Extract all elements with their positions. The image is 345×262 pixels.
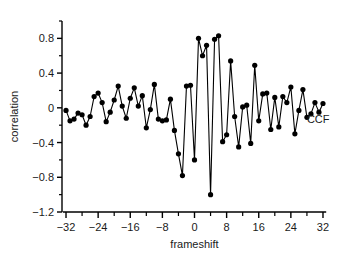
- data-point-marker: [152, 82, 157, 87]
- data-point-marker: [276, 124, 281, 129]
- data-point-marker: [236, 144, 241, 149]
- data-point-marker: [252, 63, 257, 68]
- data-point-marker: [116, 84, 121, 89]
- data-point-marker: [83, 123, 88, 128]
- data-point-marker: [79, 112, 84, 117]
- data-point-marker: [104, 119, 109, 124]
- data-point-marker: [300, 87, 305, 92]
- data-point-marker: [124, 116, 129, 121]
- data-point-marker: [284, 100, 289, 105]
- data-point-marker: [224, 132, 229, 137]
- data-point-marker: [128, 96, 133, 101]
- data-point-marker: [168, 97, 173, 102]
- data-point-marker: [312, 100, 317, 105]
- data-point-marker: [148, 107, 153, 112]
- series-annotation-layer: CCF: [307, 113, 330, 125]
- data-point-marker: [288, 84, 293, 89]
- data-point-marker: [188, 83, 193, 88]
- data-point-marker: [192, 157, 197, 162]
- data-point-marker: [320, 101, 325, 106]
- y-axis-tick-label: 0.4: [39, 67, 54, 79]
- data-point-marker: [176, 151, 181, 156]
- data-point-marker: [88, 114, 93, 119]
- data-point-marker: [220, 139, 225, 144]
- series-inline-label-ccf: CCF: [307, 113, 330, 125]
- y-axis-tick-label: −0.8: [32, 171, 54, 183]
- data-point-marker: [96, 90, 101, 95]
- data-point-marker: [63, 108, 68, 113]
- data-point-marker: [208, 192, 213, 197]
- y-axis-tick-label: 0.8: [39, 32, 54, 44]
- data-point-marker: [112, 97, 117, 102]
- x-axis-tick-label: −32: [57, 221, 76, 233]
- data-point-marker: [264, 90, 269, 95]
- data-point-marker: [268, 127, 273, 132]
- x-axis-tick-label: −8: [156, 221, 169, 233]
- y-axis-tick-label: 0: [48, 102, 54, 114]
- data-point-marker: [292, 131, 297, 136]
- data-point-marker: [120, 103, 125, 108]
- ccf-line-chart: 0.80.40−0.4−0.8−1.2 −32−24−16−808162432 …: [0, 0, 345, 262]
- data-point-marker: [144, 125, 149, 130]
- chart-figure: 0.80.40−0.4−0.8−1.2 −32−24−16−808162432 …: [0, 0, 345, 262]
- data-point-marker: [172, 128, 177, 133]
- x-axis-title: frameshift: [170, 238, 218, 250]
- data-point-marker: [92, 94, 97, 99]
- x-axis-tick-label: 24: [285, 221, 297, 233]
- x-axis-tick-label: 8: [224, 221, 230, 233]
- x-axis-tick-label: −16: [121, 221, 140, 233]
- data-point-marker: [248, 141, 253, 146]
- x-axis-tick-label: 32: [317, 221, 329, 233]
- data-point-marker: [244, 103, 249, 108]
- data-point-marker: [212, 37, 217, 42]
- y-axis-tick-label: −0.4: [32, 137, 54, 149]
- data-point-marker: [180, 173, 185, 178]
- x-axis-tick-label: 16: [253, 221, 265, 233]
- data-point-marker: [100, 100, 105, 105]
- data-point-marker: [272, 95, 277, 100]
- x-axis-tick-label: 0: [191, 221, 197, 233]
- y-axis-tick-label: −1.2: [32, 206, 54, 218]
- data-point-marker: [204, 43, 209, 48]
- data-point-marker: [228, 58, 233, 63]
- data-point-marker: [132, 85, 137, 90]
- data-point-marker: [108, 110, 113, 115]
- data-point-marker: [164, 117, 169, 122]
- data-point-marker: [256, 118, 261, 123]
- data-point-marker: [216, 33, 221, 38]
- data-point-marker: [71, 117, 76, 122]
- data-point-marker: [140, 93, 145, 98]
- data-point-marker: [200, 53, 205, 58]
- data-point-marker: [280, 94, 285, 99]
- data-point-marker: [232, 114, 237, 119]
- y-axis-title: correlation: [8, 91, 20, 142]
- data-point-marker: [196, 36, 201, 41]
- data-point-marker: [136, 103, 141, 108]
- data-point-marker: [296, 108, 301, 113]
- x-axis-tick-label: −24: [89, 221, 108, 233]
